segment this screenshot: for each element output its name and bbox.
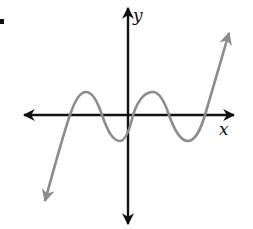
function-graph: y x bbox=[0, 0, 253, 229]
function-curve bbox=[45, 33, 229, 201]
x-axis-label: x bbox=[219, 119, 229, 139]
y-axis-label: y bbox=[132, 5, 143, 25]
